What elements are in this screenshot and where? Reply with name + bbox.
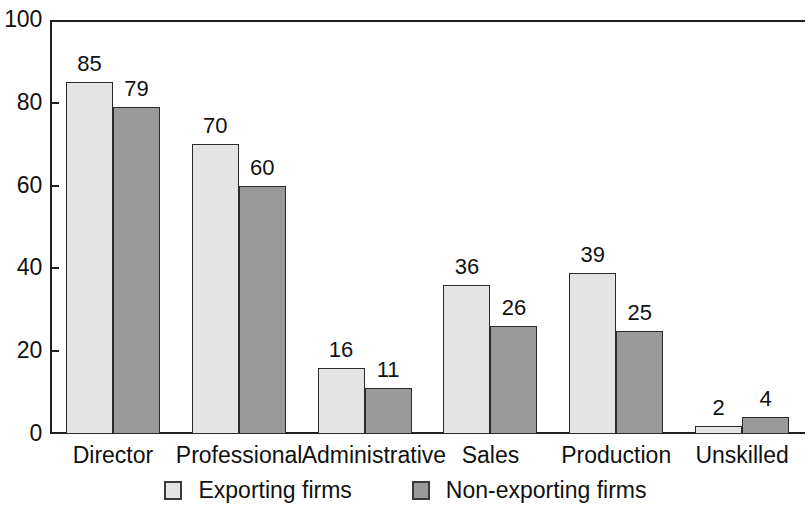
legend-label-exporting: Exporting firms (198, 479, 351, 502)
bar (742, 417, 789, 434)
legend-swatch-exporting-icon (164, 481, 182, 500)
bar-value-label: 60 (229, 157, 296, 179)
x-axis-category-label: Administrative (302, 443, 428, 468)
bar-value-label: 4 (732, 388, 799, 410)
y-tick-mark (50, 350, 59, 352)
x-axis-category-label: Unskilled (679, 443, 805, 468)
legend-label-non-exporting: Non-exporting firms (446, 479, 647, 502)
legend-swatch-non-exporting-icon (412, 481, 430, 500)
x-axis-category-label: Sales (428, 443, 554, 468)
bar-value-label: 36 (433, 256, 500, 278)
bar-value-label: 16 (308, 339, 375, 361)
bar (239, 186, 286, 434)
bar (192, 144, 239, 434)
bar (66, 82, 113, 434)
y-tick-mark (50, 185, 59, 187)
bar (695, 426, 742, 434)
legend-item-exporting: Exporting firms (164, 479, 351, 502)
bar-value-label: 70 (182, 115, 249, 137)
bars-layer: 8579706016113626392524 (0, 0, 811, 514)
bar-value-label: 79 (103, 78, 170, 100)
y-tick-mark (50, 267, 59, 269)
chart-legend: Exporting firms Non-exporting firms (0, 479, 811, 502)
bar (365, 388, 412, 434)
bar (113, 107, 160, 434)
legend-item-non-exporting: Non-exporting firms (412, 479, 647, 502)
bar-value-label: 26 (480, 297, 547, 319)
x-axis-category-label: Director (50, 443, 176, 468)
bar-value-label: 11 (355, 359, 422, 381)
bar-value-label: 85 (56, 53, 123, 75)
bar (490, 326, 537, 434)
bar (616, 331, 663, 435)
bar (569, 273, 616, 434)
bar-value-label: 39 (559, 244, 626, 266)
bar-chart: 020406080100 8579706016113626392524 Dire… (0, 0, 811, 514)
x-axis-category-label: Professional (176, 443, 302, 468)
bar-value-label: 25 (606, 302, 673, 324)
y-tick-mark (50, 102, 59, 104)
x-axis-category-label: Production (553, 443, 679, 468)
